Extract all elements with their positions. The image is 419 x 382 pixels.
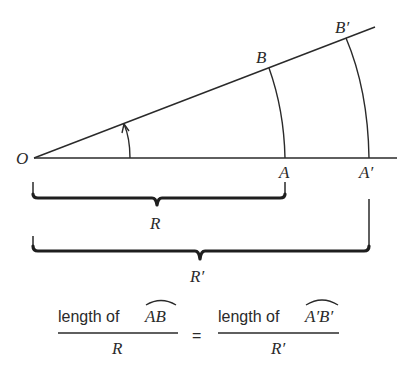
arc-length-diagram: O B B′ A A′ R R′ length of AB R = length… xyxy=(0,0,419,382)
label-r-prime: R′ xyxy=(189,267,204,286)
arc-a-prime-b-prime xyxy=(346,38,369,158)
left-arc-label: AB xyxy=(144,307,166,326)
arc-ab xyxy=(269,68,285,158)
label-a: A xyxy=(278,163,290,182)
label-a-prime: A′ xyxy=(358,163,373,182)
terminal-ray xyxy=(34,27,375,158)
label-r: R xyxy=(149,214,161,233)
right-arc-hat xyxy=(306,300,338,305)
label-o: O xyxy=(16,149,28,168)
label-b-prime: B′ xyxy=(335,18,349,37)
right-arc-label: A′B′ xyxy=(304,307,333,326)
left-denominator: R xyxy=(111,339,123,358)
right-denominator: R′ xyxy=(270,339,285,358)
right-numerator-text: length of xyxy=(218,308,280,325)
brace-r-prime xyxy=(33,199,369,259)
equals-sign: = xyxy=(192,327,201,344)
ratio-equation: length of AB R = length of A′B′ R′ xyxy=(58,300,339,358)
label-b: B xyxy=(256,48,267,67)
left-arc-hat xyxy=(146,301,176,306)
left-numerator-text: length of xyxy=(58,308,120,325)
brace-r xyxy=(33,182,285,205)
